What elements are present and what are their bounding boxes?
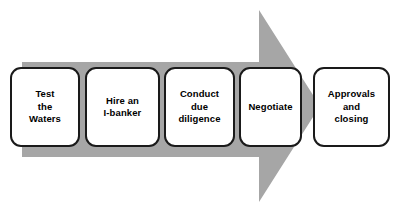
stage-box-negotiate[interactable]: Negotiate xyxy=(239,67,302,147)
stage-label: Conduct due diligence xyxy=(166,88,233,126)
stage-label: Test the Waters xyxy=(26,88,64,126)
stage-box-test-the-waters[interactable]: Test the Waters xyxy=(10,67,80,147)
diagram-canvas: Test the Waters Hire an I-banker Conduct… xyxy=(0,0,393,212)
stage-box-hire-an-i-banker[interactable]: Hire an I-banker xyxy=(85,67,160,147)
stage-box-approvals-and-closing[interactable]: Approvals and closing xyxy=(313,67,390,147)
stage-label: Approvals and closing xyxy=(325,88,378,126)
stage-box-conduct-due-diligence[interactable]: Conduct due diligence xyxy=(164,67,235,147)
stage-label: Hire an I-banker xyxy=(101,95,145,120)
stage-label: Negotiate xyxy=(245,101,295,114)
